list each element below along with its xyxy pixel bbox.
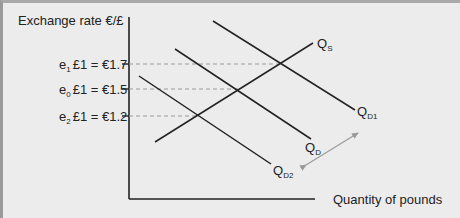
exchange-rate-diagram: Exchange rate €/£ Quantity of pounds e1£… bbox=[3, 3, 460, 218]
diagram-frame: Exchange rate €/£ Quantity of pounds e1£… bbox=[0, 0, 460, 218]
x-axis-label: Quantity of pounds bbox=[333, 192, 443, 207]
demand-d2-label: QD2 bbox=[273, 163, 294, 180]
demand-d-label: QD bbox=[305, 140, 321, 157]
supply-curve bbox=[155, 43, 313, 142]
demand-curve-d2 bbox=[139, 76, 271, 164]
supply-label: QS bbox=[317, 36, 332, 53]
demand-curve-d1 bbox=[213, 21, 355, 110]
demand-d1-label: QD1 bbox=[357, 104, 378, 121]
rate-label-e2: e2£1 = €1.2 bbox=[59, 109, 127, 126]
rate-label-e0: e0£1 = €1.5 bbox=[59, 82, 127, 99]
demand-curve-d bbox=[175, 49, 311, 139]
y-axis-label: Exchange rate €/£ bbox=[18, 13, 124, 28]
rate-label-e1: e1£1 = €1.7 bbox=[59, 57, 127, 74]
